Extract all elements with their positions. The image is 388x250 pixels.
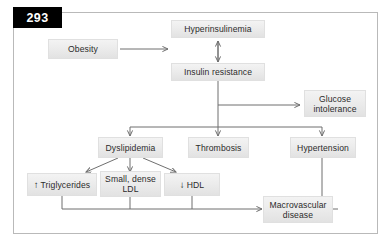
node-obesity-label: Obesity xyxy=(68,44,98,54)
node-macrovascular-disease-line1: Macrovascular xyxy=(269,200,326,210)
node-macrovascular-disease: Macrovascular disease xyxy=(263,196,333,223)
node-glucose-intolerance-line2: intolerance xyxy=(313,104,356,114)
figure-number: 293 xyxy=(26,11,48,25)
node-obesity: Obesity xyxy=(48,39,118,59)
figure-canvas: 293 Obesity Hyperinsulinemia Insulin res… xyxy=(0,0,388,250)
node-hdl: ↓ HDL xyxy=(164,173,220,196)
down-arrow-icon: ↓ xyxy=(180,180,185,189)
node-dyslipidemia: Dyslipidemia xyxy=(98,137,163,158)
node-macrovascular-disease-line2: disease xyxy=(283,210,313,220)
node-triglycerides: ↑ Triglycerides xyxy=(27,173,97,196)
node-insulin-resistance: Insulin resistance xyxy=(171,63,265,81)
node-hypertension: Hypertension xyxy=(290,137,356,158)
up-arrow-icon: ↑ xyxy=(34,180,39,189)
node-thrombosis-label: Thrombosis xyxy=(196,143,242,153)
node-hyperinsulinemia: Hyperinsulinemia xyxy=(171,20,265,38)
node-hypertension-label: Hypertension xyxy=(297,143,349,153)
node-small-dense-ldl-line2: LDL xyxy=(122,184,138,194)
node-triglycerides-label: Triglycerides xyxy=(41,180,91,190)
node-insulin-resistance-label: Insulin resistance xyxy=(184,67,252,77)
node-small-dense-ldl: Small, dense LDL xyxy=(100,171,161,197)
figure-number-badge: 293 xyxy=(13,7,62,28)
node-hdl-label: HDL xyxy=(187,180,205,190)
node-glucose-intolerance-line1: Glucose xyxy=(319,94,351,104)
node-thrombosis: Thrombosis xyxy=(188,137,249,158)
node-dyslipidemia-label: Dyslipidemia xyxy=(106,143,156,153)
node-hyperinsulinemia-label: Hyperinsulinemia xyxy=(184,24,252,34)
node-small-dense-ldl-line1: Small, dense xyxy=(105,174,156,184)
node-glucose-intolerance: Glucose intolerance xyxy=(304,90,366,117)
